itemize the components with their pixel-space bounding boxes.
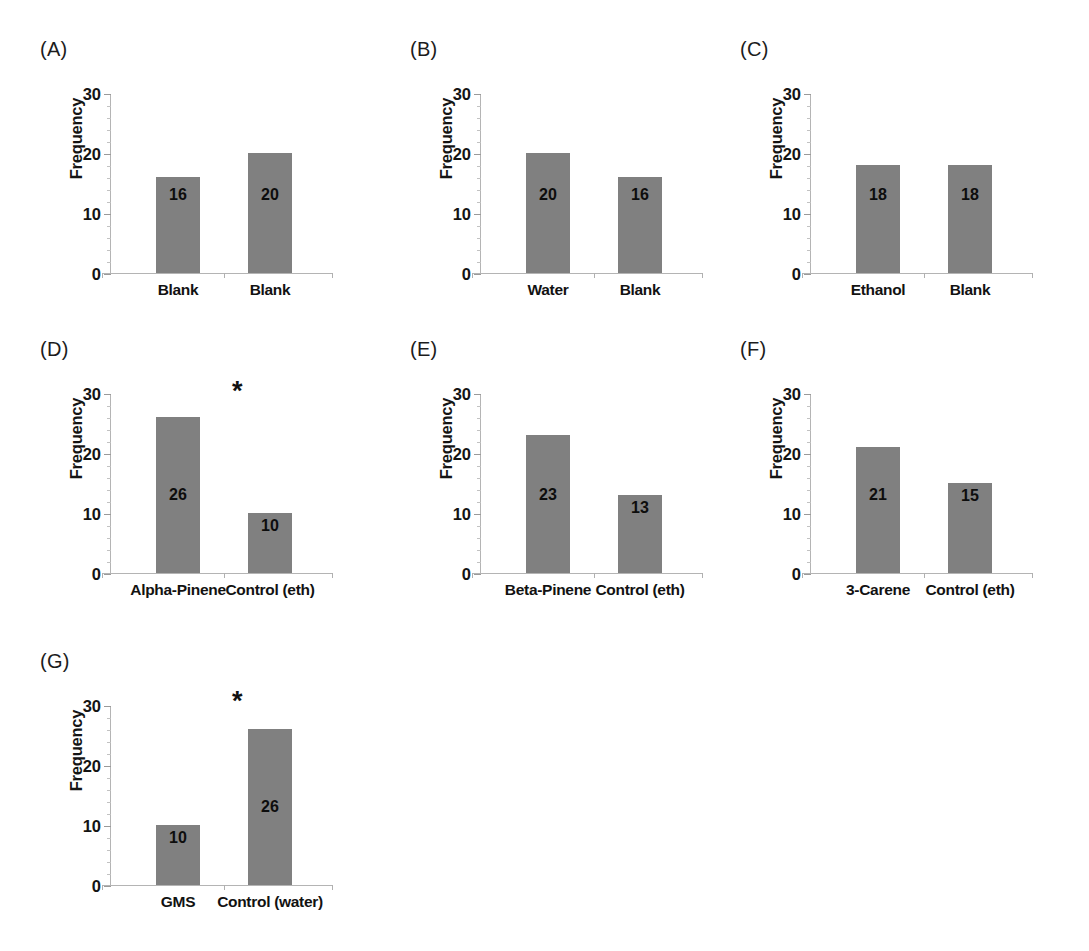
y-axis-minor-tick — [107, 190, 111, 191]
y-axis-minor-tick — [807, 178, 811, 179]
x-axis-category-label: GMS — [161, 893, 195, 911]
y-axis-minor-tick — [807, 478, 811, 479]
y-axis-minor-tick — [477, 418, 481, 419]
x-axis-tick — [224, 573, 225, 578]
y-axis-minor-tick — [477, 178, 481, 179]
y-axis-minor-tick — [477, 226, 481, 227]
x-axis-category-label: Control (eth) — [925, 581, 1014, 599]
x-axis-line — [102, 273, 332, 274]
y-axis-minor-tick — [477, 478, 481, 479]
y-axis-tick-label: 20 — [83, 145, 101, 164]
panel-letter: (C) — [740, 38, 769, 61]
y-axis-minor-tick — [107, 526, 111, 527]
y-axis-tick-label: 30 — [783, 385, 801, 404]
bar-value-label: 10 — [156, 829, 200, 847]
y-axis-minor-tick — [107, 538, 111, 539]
y-axis-tick-label: 0 — [792, 565, 801, 584]
y-axis-minor-tick — [477, 202, 481, 203]
y-axis-minor-tick — [807, 166, 811, 167]
y-axis-line — [110, 94, 111, 275]
y-axis-minor-tick — [107, 550, 111, 551]
plot-area: 010203020Water16Blank — [480, 94, 702, 274]
y-axis-tick — [804, 574, 811, 575]
bar-value-label: 26 — [248, 798, 292, 816]
x-axis-category-label: Blank — [620, 281, 661, 299]
chart-panel: (B)Frequency010203020Water16Blank — [398, 34, 728, 334]
chart-panel: (D)Frequency010203026Alpha-Pinene10Contr… — [28, 334, 358, 634]
x-axis-tick — [594, 573, 595, 578]
y-axis-tick — [474, 514, 481, 515]
y-axis-minor-tick — [107, 850, 111, 851]
y-axis-tick — [474, 214, 481, 215]
x-axis-tick — [924, 573, 925, 578]
y-axis-tick-label: 0 — [792, 265, 801, 284]
y-axis-minor-tick — [107, 718, 111, 719]
x-axis-tick — [224, 885, 225, 890]
y-axis-tick — [804, 214, 811, 215]
y-axis-title: Frequency — [67, 359, 86, 519]
y-axis-minor-tick — [807, 106, 811, 107]
x-axis-tick — [702, 573, 703, 578]
bar-value-label: 20 — [248, 186, 292, 204]
bar-value-label: 15 — [948, 487, 992, 505]
panel-letter: (A) — [40, 38, 68, 61]
y-axis-minor-tick — [807, 130, 811, 131]
x-axis-tick — [802, 573, 803, 578]
multi-panel-bar-figure: (A)Frequency010203016Blank20Blank(B)Freq… — [0, 0, 1089, 951]
chart-panel: (C)Frequency010203018Ethanol18Blank — [728, 34, 1058, 334]
y-axis-tick — [104, 766, 111, 767]
y-axis-title: Frequency — [67, 59, 86, 219]
x-axis-line — [802, 573, 1032, 574]
y-axis-tick — [104, 394, 111, 395]
y-axis-minor-tick — [477, 550, 481, 551]
y-axis-title: Frequency — [67, 671, 86, 831]
y-axis-tick-label: 0 — [92, 565, 101, 584]
x-axis-category-label: Control (eth) — [595, 581, 684, 599]
x-axis-tick — [472, 273, 473, 278]
y-axis-minor-tick — [807, 250, 811, 251]
y-axis-minor-tick — [107, 502, 111, 503]
y-axis-minor-tick — [107, 490, 111, 491]
x-axis-category-label: Blank — [250, 281, 291, 299]
bar-value-label: 23 — [526, 486, 570, 504]
y-axis-tick — [474, 574, 481, 575]
x-axis-line — [102, 573, 332, 574]
bar: 18 — [856, 165, 900, 273]
y-axis-minor-tick — [477, 250, 481, 251]
y-axis-tick-label: 20 — [783, 445, 801, 464]
y-axis-minor-tick — [807, 538, 811, 539]
y-axis-tick-label: 10 — [83, 505, 101, 524]
y-axis-tick — [104, 574, 111, 575]
x-axis-category-label: Alpha-Pinene — [130, 581, 225, 599]
y-axis-line — [480, 394, 481, 575]
y-axis-minor-tick — [807, 262, 811, 263]
y-axis-minor-tick — [107, 754, 111, 755]
y-axis-line — [810, 94, 811, 275]
y-axis-tick — [474, 94, 481, 95]
x-axis-tick — [924, 273, 925, 278]
y-axis-minor-tick — [477, 502, 481, 503]
y-axis-minor-tick — [107, 862, 111, 863]
y-axis-minor-tick — [807, 118, 811, 119]
y-axis-minor-tick — [477, 166, 481, 167]
bar-value-label: 18 — [856, 186, 900, 204]
x-axis-line — [102, 885, 332, 886]
plot-area: 010203010GMS26Control (water)* — [110, 706, 332, 886]
y-axis-tick-label: 30 — [453, 85, 471, 104]
y-axis-minor-tick — [107, 142, 111, 143]
bar: 10 — [156, 825, 200, 885]
y-axis-title: Frequency — [437, 359, 456, 519]
y-axis-minor-tick — [477, 118, 481, 119]
panel-letter: (B) — [410, 38, 438, 61]
y-axis-minor-tick — [807, 142, 811, 143]
bar: 26 — [156, 417, 200, 573]
y-axis-minor-tick — [477, 430, 481, 431]
x-axis-category-label: Control (eth) — [225, 581, 314, 599]
bar: 13 — [618, 495, 662, 573]
y-axis-minor-tick — [477, 442, 481, 443]
chart-panel: (G)Frequency010203010GMS26Control (water… — [28, 646, 358, 946]
y-axis-tick — [474, 454, 481, 455]
y-axis-tick-label: 10 — [783, 505, 801, 524]
chart-panel: (E)Frequency010203023Beta-Pinene13Contro… — [398, 334, 728, 634]
y-axis-tick-label: 0 — [92, 877, 101, 896]
